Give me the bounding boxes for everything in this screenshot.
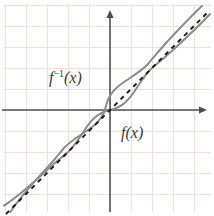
label-f-args: (x) <box>125 124 143 141</box>
label-f-inverse-exponent: −1 <box>53 68 64 79</box>
label-f: f(x) <box>121 125 143 141</box>
function-inverse-plot: f−1(x) f(x) <box>0 0 214 216</box>
plot-canvas <box>0 0 214 216</box>
label-f-inverse-args: (x) <box>64 69 82 86</box>
label-f-inverse: f−1(x) <box>49 70 82 86</box>
